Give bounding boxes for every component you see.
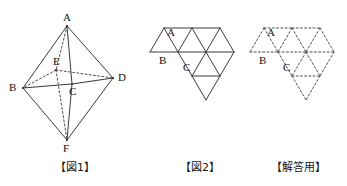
- net-diagram-solid: [150, 0, 250, 156]
- edge-AD: [67, 26, 113, 78]
- net-edge-q2-r1: [192, 52, 206, 76]
- net-edge-p1-q2: [292, 28, 306, 52]
- net-edge-r2-s2: [306, 76, 320, 100]
- figure-panel-octahedron: A B C D E F 【図1】: [0, 0, 150, 186]
- net-answer-label-A: A: [267, 27, 275, 38]
- edge-CD: [72, 78, 113, 84]
- vertex-dot-F: [66, 139, 68, 141]
- net-edge-r1-s2: [192, 76, 206, 100]
- net-edge-p2-q3: [320, 28, 334, 52]
- octahedron-diagram: [0, 0, 150, 156]
- net-label-A: A: [167, 27, 175, 38]
- edge-AC: [67, 26, 72, 84]
- vertex-label-D: D: [118, 72, 126, 83]
- net-edge-q2-r1: [292, 52, 306, 76]
- net-edge-p0-q0: [150, 28, 164, 52]
- net-edge-p1-q1: [178, 28, 192, 52]
- net-edge-p2-q2: [306, 28, 320, 52]
- edge-BC: [23, 84, 72, 88]
- vertex-dot-E: [55, 69, 57, 71]
- net-edge-p2-q2: [206, 28, 220, 52]
- net-edge-r2-s2: [206, 76, 220, 100]
- net-answer-label-C: C: [283, 62, 290, 73]
- vertex-label-A: A: [63, 12, 71, 23]
- vertex-dot-A: [66, 25, 68, 27]
- net-answer-label-B: B: [259, 55, 266, 66]
- net-edge-q3-r2: [220, 52, 234, 76]
- figure-caption-1: 【図1】: [0, 158, 150, 174]
- net-diagram-answer: [250, 0, 347, 156]
- net-edge-q3-r2: [320, 52, 334, 76]
- vertex-dot-D: [112, 77, 114, 79]
- edge-AB: [23, 26, 67, 88]
- net-edge-p2-q3: [220, 28, 234, 52]
- vertex-label-F: F: [63, 143, 69, 154]
- figure-caption-2: 【図2】: [150, 158, 250, 174]
- net-edge-q2-r2: [306, 52, 320, 76]
- edge-hidden-ED: [56, 70, 113, 78]
- vertex-label-B: B: [9, 82, 16, 93]
- figure-panel-net-solid: A B C 【図2】: [150, 0, 250, 186]
- vertex-dot-B: [22, 87, 24, 89]
- figure-panel-net-answer: A B C 【解答用】: [250, 0, 347, 186]
- vertex-label-E: E: [53, 56, 60, 67]
- net-label-B: B: [159, 55, 166, 66]
- net-label-C: C: [183, 62, 190, 73]
- net-edge-r1-s2: [292, 76, 306, 100]
- net-edge-p1-q1: [278, 28, 292, 52]
- net-edge-p0-q0: [250, 28, 264, 52]
- net-edge-q2-r2: [206, 52, 220, 76]
- vertex-label-C: C: [69, 86, 76, 97]
- net-edge-p1-q2: [192, 28, 206, 52]
- figure-caption-3: 【解答用】: [250, 158, 347, 174]
